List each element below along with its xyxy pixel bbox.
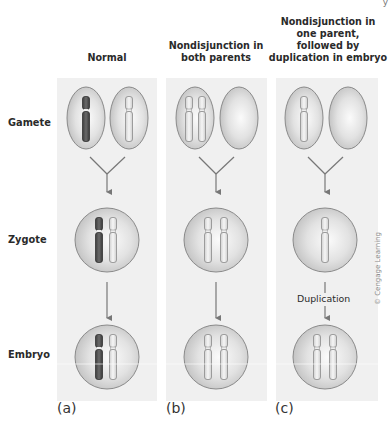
copyright-credit: © Cengage Learning [374, 232, 382, 305]
fusion-arrow [308, 157, 343, 192]
chromosome-light [221, 335, 228, 380]
gamete-cell [176, 87, 214, 149]
chromosome-light [322, 218, 329, 263]
embryo-cell [184, 325, 248, 389]
panel-label-a: (a) [57, 400, 77, 416]
panel-label-b: (b) [166, 400, 186, 416]
chromosome-light [205, 218, 212, 263]
embryo-cell [293, 325, 357, 389]
chromosome-light [110, 218, 117, 263]
chromosome-light [330, 335, 337, 380]
zygote-cell [75, 208, 139, 272]
chromosome-light [110, 335, 117, 380]
duplication-label: Duplication [296, 293, 351, 304]
panel-label-c: (c) [275, 400, 294, 416]
fusion-arrow [199, 157, 234, 192]
chromosome-light [301, 97, 308, 142]
chromosome-light [186, 97, 193, 142]
diagram-graphics [0, 0, 390, 427]
chromosome-light [199, 97, 206, 142]
embryo-normal [75, 325, 139, 389]
embryo-one-parent [293, 325, 357, 389]
gamete-pair-normal [67, 87, 148, 149]
chromosome-dark [96, 218, 103, 263]
embryo-both-parents [184, 325, 248, 389]
zygote-one-parent [293, 208, 357, 272]
chromosome-light [221, 218, 228, 263]
embryo-cell [75, 325, 139, 389]
gamete-cell-empty [220, 87, 258, 149]
fusion-arrow [90, 157, 125, 192]
gamete-cell-empty [329, 87, 367, 149]
chromosome-dark [96, 335, 103, 380]
chromosome-dark [83, 97, 90, 142]
gamete-pair-both-parents [176, 87, 258, 149]
zygote-both-parents [184, 208, 248, 272]
chromosome-light [205, 335, 212, 380]
zygote-normal [75, 208, 139, 272]
chromosome-light [126, 97, 133, 142]
gamete-pair-one-parent [285, 87, 367, 149]
chromosome-light [314, 335, 321, 380]
zygote-cell [184, 208, 248, 272]
